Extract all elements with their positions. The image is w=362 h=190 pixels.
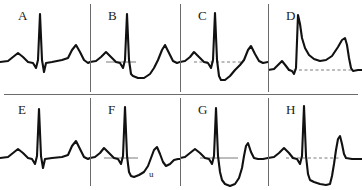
ecg-trace-c [180, 0, 268, 94]
u-wave-label: u [149, 170, 154, 179]
ecg-morphology-figure: A B C D [0, 0, 362, 190]
ecg-panel-g[interactable]: G [180, 94, 268, 190]
ecg-panel-d[interactable]: D [268, 0, 362, 94]
vertical-divider-top-3 [268, 4, 269, 92]
vertical-divider-top-1 [90, 4, 91, 92]
ecg-waveform-path-h [268, 106, 362, 185]
ecg-trace-f [90, 94, 180, 190]
ecg-panel-c[interactable]: C [180, 0, 268, 94]
ecg-panel-b[interactable]: B [90, 0, 180, 94]
ecg-waveform-path-d [268, 15, 362, 74]
ecg-waveform-path-b [90, 14, 180, 78]
vertical-divider-top-2 [180, 4, 181, 92]
ecg-waveform-path-a [0, 14, 90, 72]
ecg-trace-g [180, 94, 268, 190]
horizontal-divider [4, 94, 358, 95]
vertical-divider-bottom-1 [90, 98, 91, 186]
ecg-trace-e [0, 94, 90, 190]
ecg-waveform-path-c [180, 13, 268, 80]
ecg-panel-f[interactable]: F u [90, 94, 180, 190]
ecg-trace-b [90, 0, 180, 94]
vertical-divider-bottom-2 [180, 98, 181, 186]
ecg-panel-a[interactable]: A [0, 0, 90, 94]
ecg-trace-d [268, 0, 362, 94]
ecg-waveform-path-f [90, 107, 180, 177]
ecg-waveform-path-g [180, 108, 268, 186]
ecg-panel-e[interactable]: E [0, 94, 90, 190]
ecg-trace-a [0, 0, 90, 94]
panel-grid: A B C D [0, 0, 362, 190]
ecg-waveform-path-e [0, 109, 90, 168]
ecg-trace-h [268, 94, 362, 190]
vertical-divider-bottom-3 [268, 98, 269, 186]
ecg-panel-h[interactable]: H [268, 94, 362, 190]
